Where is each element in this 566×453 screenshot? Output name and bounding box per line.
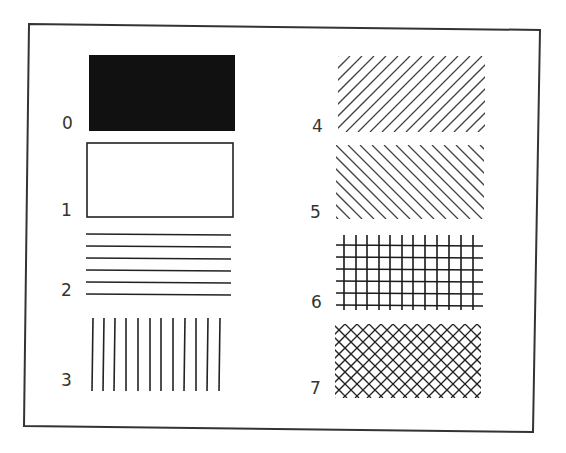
pattern-label-2: 2 bbox=[61, 280, 72, 300]
pattern-swatch-0 bbox=[89, 55, 235, 131]
pattern-label-1: 1 bbox=[61, 200, 72, 220]
pattern-swatch-5 bbox=[264, 145, 554, 219]
pattern-swatch-4 bbox=[262, 56, 554, 132]
pattern-swatch-3 bbox=[92, 318, 220, 391]
pattern-label-4: 4 bbox=[312, 116, 323, 136]
pattern-label-3: 3 bbox=[61, 370, 72, 390]
pattern-label-6: 6 bbox=[311, 292, 322, 312]
pattern-swatch-7 bbox=[259, 322, 551, 398]
pattern-legend-figure: 0 1 2 3 bbox=[0, 0, 566, 453]
pattern-swatch-2 bbox=[86, 234, 231, 295]
pattern-label-5: 5 bbox=[310, 202, 321, 222]
pattern-label-7: 7 bbox=[310, 378, 321, 398]
pattern-label-0: 0 bbox=[62, 113, 73, 133]
pattern-swatch-1 bbox=[87, 143, 233, 217]
pattern-swatch-6 bbox=[336, 235, 483, 310]
